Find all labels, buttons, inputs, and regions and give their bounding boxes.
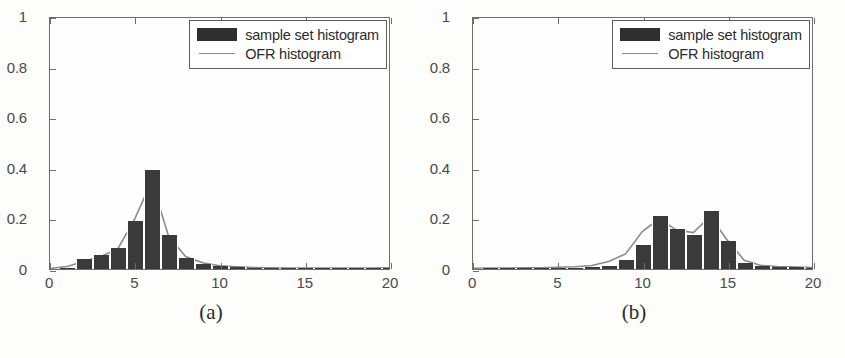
legend-entry-sample-set-b: sample set histogram (620, 25, 802, 44)
caption-b: (b) (423, 300, 845, 325)
histogram-bar (382, 268, 389, 269)
y-tick-label: 0 (0, 261, 27, 278)
histogram-bar (229, 267, 246, 269)
histogram-bar (618, 260, 635, 269)
y-tick-mark (473, 119, 479, 120)
histogram-bar (516, 268, 533, 269)
legend-label: sample set histogram (668, 27, 802, 43)
histogram-bar (737, 263, 754, 269)
histogram-bar (110, 248, 127, 269)
legend-label: OFR histogram (245, 46, 341, 62)
legend-b: sample set histogram OFR histogram (612, 20, 810, 69)
x-tick-mark-top (50, 18, 51, 24)
histogram-bar (178, 258, 195, 269)
histogram-bar (584, 267, 601, 269)
y-tick-label: 0.4 (0, 160, 27, 177)
x-tick-mark (221, 263, 222, 269)
histogram-bar (601, 266, 618, 269)
histogram-bar (703, 211, 720, 269)
y-tick-label: 0 (406, 261, 450, 278)
x-tick-label: 0 (29, 274, 69, 291)
plot-box-a: sample set histogram OFR histogram (49, 17, 390, 270)
legend-entry-ofr-b: OFR histogram (620, 44, 802, 63)
histogram-bar (280, 268, 297, 269)
x-tick-label: 20 (370, 274, 410, 291)
y-tick-mark (50, 220, 56, 221)
histogram-bar (195, 264, 212, 269)
legend-label: OFR histogram (668, 46, 764, 62)
y-tick-mark (473, 271, 479, 272)
histogram-bar (533, 268, 550, 269)
y-tick-label: 0.2 (406, 210, 450, 227)
y-tick-mark (473, 220, 479, 221)
x-tick-label: 20 (793, 274, 833, 291)
histogram-bar (59, 268, 76, 269)
x-tick-mark-top (473, 18, 474, 24)
histogram-bar (76, 259, 93, 269)
x-tick-mark-top (558, 18, 559, 24)
y-tick-label: 0.6 (0, 109, 27, 126)
y-tick-label: 0.8 (0, 59, 27, 76)
histogram-bar (246, 268, 263, 269)
y-tick-mark (473, 170, 479, 171)
x-tick-mark (391, 263, 392, 269)
x-tick-label: 5 (537, 274, 577, 291)
x-tick-mark-top (135, 18, 136, 24)
x-tick-mark (135, 263, 136, 269)
x-tick-label: 15 (708, 274, 748, 291)
y-tick-mark (50, 271, 56, 272)
legend-swatch-icon (197, 28, 237, 41)
x-tick-label: 10 (623, 274, 663, 291)
y-tick-label: 0.4 (406, 160, 450, 177)
y-tick-mark (50, 119, 56, 120)
histogram-bar (93, 255, 110, 269)
x-tick-mark (306, 263, 307, 269)
x-tick-mark (473, 263, 474, 269)
histogram-bar (263, 268, 280, 269)
histogram-bar (482, 268, 499, 269)
histogram-bar (499, 268, 516, 269)
plot-box-b: sample set histogram OFR histogram (472, 17, 813, 270)
histogram-bar (652, 216, 669, 269)
histogram-bar (669, 229, 686, 269)
x-tick-label: 15 (285, 274, 325, 291)
y-tick-mark (473, 69, 479, 70)
histogram-bar (331, 268, 348, 269)
legend-swatch-icon (620, 28, 660, 41)
x-tick-mark (50, 263, 51, 269)
y-tick-mark (50, 170, 56, 171)
x-tick-mark-top (814, 18, 815, 24)
histogram-bar (144, 170, 161, 269)
x-tick-label: 0 (452, 274, 492, 291)
caption-a: (a) (0, 300, 422, 325)
x-tick-mark (644, 263, 645, 269)
histogram-bar (365, 268, 382, 269)
x-tick-mark (558, 263, 559, 269)
y-tick-label: 0.2 (0, 210, 27, 227)
legend-entry-ofr-a: OFR histogram (197, 44, 379, 63)
histogram-bar (127, 221, 144, 269)
y-tick-label: 1 (406, 8, 450, 25)
x-tick-mark (814, 263, 815, 269)
x-tick-label: 10 (200, 274, 240, 291)
histogram-bar (348, 268, 365, 269)
legend-line-icon (197, 47, 237, 60)
histogram-bar (788, 267, 805, 269)
figure-two-histograms: sample set histogram OFR histogram 00.20… (0, 0, 845, 358)
legend-a: sample set histogram OFR histogram (189, 20, 387, 69)
histogram-bar (771, 267, 788, 270)
x-tick-mark-top (391, 18, 392, 24)
histogram-bar (161, 235, 178, 269)
histogram-bar (314, 268, 331, 269)
panel-a: sample set histogram OFR histogram 00.20… (0, 0, 422, 358)
histogram-bar (805, 268, 812, 270)
y-tick-mark (50, 69, 56, 70)
x-tick-mark (729, 263, 730, 269)
histogram-bar (567, 268, 584, 270)
y-tick-label: 1 (0, 8, 27, 25)
x-tick-label: 5 (114, 274, 154, 291)
legend-line-icon (620, 47, 660, 60)
histogram-bar (686, 235, 703, 269)
y-tick-label: 0.8 (406, 59, 450, 76)
legend-label: sample set histogram (245, 27, 379, 43)
